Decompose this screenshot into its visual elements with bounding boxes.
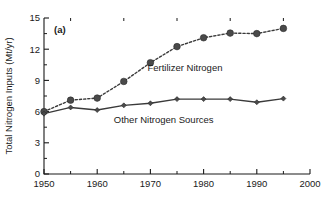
y-tick-label: 15 [29, 12, 40, 23]
series-annotation-label: Fertilizer Nitrogen [147, 62, 222, 73]
data-point [67, 97, 74, 104]
x-tick-label: 1970 [140, 178, 161, 189]
x-tick-label: 1990 [246, 178, 267, 189]
data-point [174, 43, 181, 50]
x-tick-label: 2000 [299, 178, 320, 189]
data-point [280, 25, 287, 32]
y-axis-title: Total Nitrogen Inputs (Mt/yr) [3, 37, 14, 154]
data-point [121, 78, 128, 85]
x-tick-label: 1950 [33, 178, 54, 189]
x-tick-label: 1980 [193, 178, 214, 189]
y-tick-label: 12 [29, 44, 40, 55]
chart-figure: 03691215 195019601970198019902000 Total … [0, 0, 326, 200]
panel-label: (a) [54, 24, 66, 35]
x-tick-label: 1960 [87, 178, 108, 189]
data-point [253, 30, 260, 37]
data-point [200, 34, 207, 41]
data-point [227, 30, 234, 37]
y-tick-label: 3 [35, 137, 40, 148]
nitrogen-inputs-line-chart: 03691215 195019601970198019902000 Total … [0, 0, 326, 200]
y-tick-label: 6 [35, 106, 40, 117]
series-annotation-label: Other Nitrogen Sources [114, 114, 214, 125]
y-tick-label: 9 [35, 75, 40, 86]
data-point [94, 95, 101, 102]
